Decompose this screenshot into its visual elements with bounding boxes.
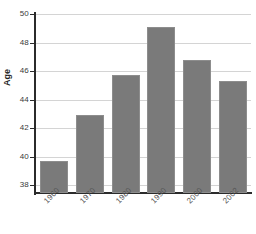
bar-chart: Age 38404244464850 196019701980199020002… [0,0,256,234]
y-axis-tick [30,43,35,44]
bar [147,27,175,193]
y-axis-tick-labels: 38404244464850 [0,0,29,193]
y-axis-tick [30,185,35,186]
bar [112,75,140,193]
y-axis-tick [30,14,35,15]
y-axis-tick [30,71,35,72]
x-axis-tick-labels: 196019701980199020002002 [36,193,251,234]
y-axis-tick-label: 46 [5,67,29,75]
y-axis-tick [30,157,35,158]
y-axis-tick-label: 44 [5,96,29,104]
y-axis-tick-label: 40 [5,153,29,161]
y-axis-tick [30,100,35,101]
bar [183,60,211,193]
y-axis-tick [30,128,35,129]
bar [76,115,104,193]
y-axis-tick-label: 48 [5,39,29,47]
y-axis-tick-label: 38 [5,181,29,189]
bar-series [36,0,251,193]
y-axis-tick-label: 42 [5,124,29,132]
y-axis-tick-label: 50 [5,10,29,18]
bar [219,81,247,193]
